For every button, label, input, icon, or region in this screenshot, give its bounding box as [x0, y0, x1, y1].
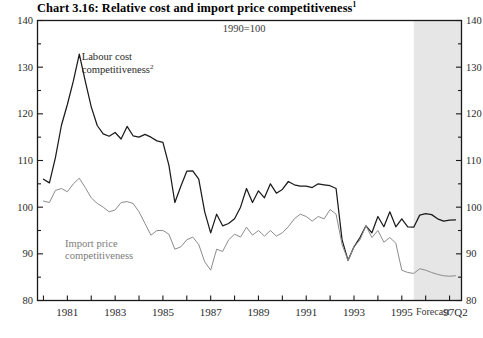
forecast-shaded-band [414, 21, 462, 301]
y-axis-label-left: 110 [18, 155, 33, 166]
series-label-line2-import-price: competitiveness [65, 250, 133, 261]
forecast-label: Forecast [416, 306, 450, 317]
series-label-line1-labour-cost: Labour cost [82, 51, 132, 62]
series-line-import-price [43, 178, 455, 276]
series-line-labour-cost [43, 54, 455, 260]
text-labels-layer: 8080909010010011011012012013013014014019… [17, 15, 482, 317]
x-axis-label: 1983 [104, 306, 127, 318]
x-axis-label: 1981 [56, 306, 78, 318]
y-axis-label-left: 100 [17, 202, 33, 213]
y-axis-label-right: 80 [466, 295, 477, 306]
y-axis-label-left: 90 [23, 248, 34, 259]
series-label-superscript: 2 [150, 63, 154, 71]
y-axis-label-left: 130 [17, 62, 33, 73]
y-axis-label-right: 120 [466, 108, 482, 119]
chart-plot-area: 8080909010010011011012012013013014014019… [0, 0, 483, 338]
forecast-shading-layer [414, 21, 462, 301]
series-label-line2-labour-cost: competitiveness2 [82, 63, 154, 75]
y-axis-label-left: 120 [17, 108, 33, 119]
x-axis-label: 1995 [391, 306, 414, 318]
x-axis-label: 1987 [200, 306, 223, 318]
subtitle-label: 1990=100 [223, 23, 266, 34]
chart-figure: Chart 3.16: Relative cost and import pri… [0, 0, 483, 338]
y-axis-label-right: 100 [466, 202, 482, 213]
series-label-line1-import-price: Import price [65, 238, 118, 249]
x-axis-label: 1993 [343, 306, 366, 318]
x-axis-label: 1989 [247, 306, 270, 318]
y-axis-label-left: 80 [23, 295, 34, 306]
x-axis-label: 1991 [295, 306, 317, 318]
y-axis-label-left: 140 [17, 15, 33, 26]
y-axis-label-right: 130 [466, 62, 482, 73]
y-axis-label-right: 90 [466, 248, 477, 259]
y-axis-label-right: 110 [466, 155, 481, 166]
x-axis-label: 1985 [152, 306, 175, 318]
y-axis-label-right: 140 [466, 15, 482, 26]
